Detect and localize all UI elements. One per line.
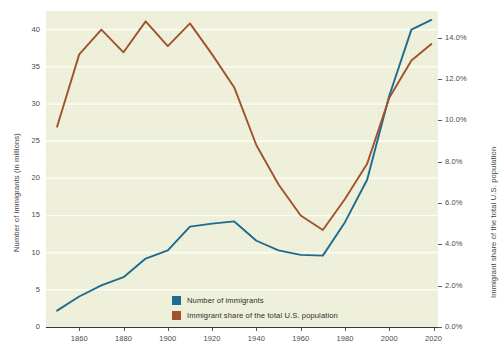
x-axis-tick-mark [345, 328, 346, 331]
chart-legend: Number of immigrants Immigrant share of … [172, 294, 338, 324]
y-axis-left-tick-label: 5 [14, 285, 40, 294]
y-axis-right-tick-label: 0.0% [445, 322, 463, 331]
y-axis-right-tick-label: 6.0% [445, 198, 463, 207]
y-axis-right-tick-mark [438, 327, 442, 328]
x-axis-tick-label: 1980 [333, 334, 357, 343]
legend-label-immigrant-share: Immigrant share of the total U.S. popula… [187, 311, 338, 320]
y-axis-right-tick-mark [438, 162, 442, 163]
x-axis-tick-mark [301, 328, 302, 331]
y-axis-right-tick-label: 2.0% [445, 281, 463, 290]
x-axis-tick-label: 1860 [67, 334, 91, 343]
legend-swatch-brown [172, 311, 181, 320]
legend-label-immigrant-count: Number of immigrants [187, 296, 264, 305]
x-axis-tick-label: 1920 [200, 334, 224, 343]
x-axis-tick-mark [212, 328, 213, 331]
y-axis-right-tick-mark [438, 79, 442, 80]
y-axis-right-tick-label: 10.0% [445, 115, 467, 124]
series-line-immigrant-share [57, 21, 431, 230]
legend-item-immigrant-share: Immigrant share of the total U.S. popula… [172, 309, 338, 322]
y-axis-left-tick-label: 35 [14, 62, 40, 71]
legend-item-immigrant-count: Number of immigrants [172, 294, 338, 307]
y-axis-right-tick-mark [438, 244, 442, 245]
gridlines [46, 30, 438, 290]
x-axis-tick-mark [124, 328, 125, 331]
series-line-immigrant-count [57, 20, 431, 311]
y-axis-right-tick-mark [438, 120, 442, 121]
x-axis-tick-mark [256, 328, 257, 331]
y-axis-right-tick-mark [438, 286, 442, 287]
y-axis-right-tick-mark [438, 203, 442, 204]
y-axis-right-tick-label: 12.0% [445, 74, 467, 83]
x-axis-tick-label: 1880 [112, 334, 136, 343]
x-axis-tick-mark [389, 328, 390, 331]
immigration-line-chart: 0510152025303540 0.0%2.0%4.0%6.0%8.0%10.… [0, 0, 502, 361]
x-axis-tick-label: 2000 [377, 334, 401, 343]
y-axis-right-tick-label: 4.0% [445, 239, 463, 248]
x-axis-tick-label: 1900 [156, 334, 180, 343]
y-axis-right-tick-label: 14.0% [445, 33, 467, 42]
y-axis-right-tick-label: 8.0% [445, 157, 463, 166]
y-axis-left-tick-label: 0 [14, 322, 40, 331]
y-axis-right-tick-mark [438, 38, 442, 39]
y-axis-left-title: Number of immigrants (in millions) [12, 133, 21, 252]
x-axis-tick-mark [168, 328, 169, 331]
series-lines [57, 20, 431, 311]
x-axis-tick-label: 2020 [422, 334, 446, 343]
x-axis-tick-label: 1960 [289, 334, 313, 343]
y-axis-right-title: Immigrant share of the total U.S. popula… [489, 147, 498, 298]
x-axis-tick-label: 1940 [244, 334, 268, 343]
y-axis-left-tick-label: 30 [14, 99, 40, 108]
x-axis-tick-mark [79, 328, 80, 331]
y-axis-left-tick-label: 40 [14, 25, 40, 34]
x-axis-line [46, 327, 438, 328]
x-axis-tick-mark [434, 328, 435, 331]
legend-swatch-blue [172, 296, 181, 305]
